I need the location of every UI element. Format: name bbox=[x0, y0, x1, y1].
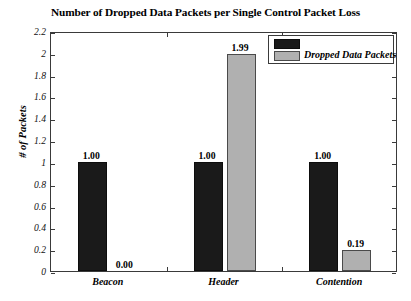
bar-value-label: 1.99 bbox=[219, 42, 262, 53]
bar bbox=[342, 250, 371, 271]
y-tick-mark bbox=[51, 273, 55, 274]
y-tick-mark bbox=[392, 142, 396, 143]
y-tick-label: 1.6 bbox=[2, 91, 46, 102]
chart-figure: Number of Dropped Data Packets per Singl… bbox=[0, 0, 411, 301]
y-tick-mark bbox=[392, 33, 396, 34]
y-tick-label: 1 bbox=[2, 157, 46, 168]
bar bbox=[227, 54, 256, 271]
bar-value-label: 0.19 bbox=[334, 238, 377, 249]
y-tick-label: 1.4 bbox=[2, 113, 46, 124]
y-tick-mark bbox=[392, 77, 396, 78]
y-tick-mark bbox=[51, 77, 55, 78]
y-tick-label: 0.8 bbox=[2, 179, 46, 190]
y-tick-mark bbox=[392, 164, 396, 165]
y-tick-label: 0 bbox=[2, 266, 46, 277]
y-tick-mark bbox=[392, 120, 396, 121]
x-category-label: Beacon bbox=[50, 276, 166, 287]
y-tick-label: 2.2 bbox=[2, 26, 46, 37]
y-tick-label: 1.2 bbox=[2, 135, 46, 146]
x-tick-mark bbox=[282, 267, 283, 271]
x-category-label: Header bbox=[166, 276, 282, 287]
bar-value-label: 1.00 bbox=[186, 150, 229, 161]
y-tick-mark bbox=[392, 273, 396, 274]
y-tick-mark bbox=[392, 208, 396, 209]
y-tick-label: 1.8 bbox=[2, 70, 46, 81]
y-tick-label: 0.4 bbox=[2, 222, 46, 233]
y-tick-mark bbox=[51, 33, 55, 34]
bar-value-label: 0.00 bbox=[103, 259, 146, 270]
page-title: Number of Dropped Data Packets per Singl… bbox=[0, 6, 411, 18]
x-tick-mark bbox=[167, 267, 168, 271]
bar bbox=[78, 162, 107, 271]
y-tick-mark bbox=[51, 98, 55, 99]
y-tick-mark bbox=[392, 229, 396, 230]
y-axis-title: # of Packets bbox=[17, 72, 28, 192]
y-tick-label: 0.6 bbox=[2, 201, 46, 212]
y-tick-mark bbox=[51, 208, 55, 209]
x-tick-mark bbox=[167, 33, 168, 37]
legend-label: Dropped Data Packets bbox=[304, 49, 396, 60]
y-tick-mark bbox=[51, 164, 55, 165]
legend: Dropped Data Packets bbox=[268, 35, 394, 64]
y-tick-mark bbox=[51, 120, 55, 121]
x-category-label: Contention bbox=[281, 276, 397, 287]
y-tick-mark bbox=[392, 186, 396, 187]
legend-swatch-dropped-data-packets bbox=[274, 51, 300, 61]
legend-swatch-control-packet bbox=[274, 39, 300, 49]
y-tick-mark bbox=[51, 142, 55, 143]
y-tick-label: 0.2 bbox=[2, 244, 46, 255]
bar bbox=[309, 162, 338, 271]
y-tick-mark bbox=[51, 229, 55, 230]
bar bbox=[194, 162, 223, 271]
bar-value-label: 1.00 bbox=[70, 150, 113, 161]
y-tick-mark bbox=[392, 98, 396, 99]
bar-value-label: 1.00 bbox=[301, 150, 344, 161]
y-tick-mark bbox=[51, 55, 55, 56]
y-tick-mark bbox=[51, 251, 55, 252]
y-tick-mark bbox=[392, 251, 396, 252]
y-tick-mark bbox=[51, 186, 55, 187]
y-tick-label: 2 bbox=[2, 48, 46, 59]
